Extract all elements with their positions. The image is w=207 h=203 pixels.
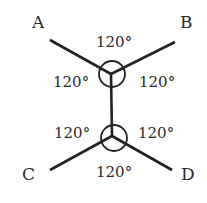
label-b: B [180, 12, 193, 32]
diagram-canvas: A B C D 120° 120° 120° 120° 120° 120° [0, 0, 207, 203]
angle-bottom-right: 120° [138, 124, 174, 142]
angle-top-left: 120° [53, 73, 89, 91]
angle-bottom-lower: 120° [96, 163, 132, 181]
bond-center [111, 74, 112, 136]
angle-bottom-left: 120° [54, 124, 90, 142]
label-c: C [22, 164, 35, 184]
label-a: A [31, 12, 45, 32]
label-d: D [181, 164, 195, 184]
angle-top-right: 120° [139, 73, 175, 91]
angle-top-upper: 120° [96, 33, 132, 51]
